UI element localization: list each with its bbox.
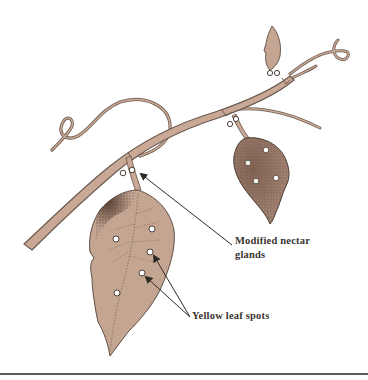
nectar-glands-label: Modified nectar glands — [235, 234, 310, 262]
vine-illustration — [0, 0, 368, 380]
top-bud-leaf — [264, 26, 281, 76]
yellow-leaf-spot — [113, 236, 119, 242]
bottom-rule-divider — [0, 373, 368, 375]
yellow-leaf-spot — [147, 249, 153, 255]
yellow-leaf-spot — [114, 290, 120, 296]
yellow-leaf-spot — [253, 178, 259, 184]
yellow-leaf-spot — [139, 270, 145, 276]
nectar-gland — [227, 121, 232, 126]
nectar-glands-label-line1: Modified nectar — [235, 234, 310, 248]
nectar-gland — [120, 170, 126, 176]
diagram-figure: Modified nectar glands Yellow leaf spots — [0, 0, 368, 380]
nectar-gland — [233, 116, 238, 121]
left-tendril — [52, 99, 170, 156]
yellow-leaf-spot — [149, 226, 155, 232]
yellow-leaf-spots-label: Yellow leaf spots — [192, 309, 269, 323]
right-leaf-petiole — [227, 114, 249, 140]
large-leaf — [89, 190, 174, 356]
yellow-leaf-spot — [245, 160, 251, 166]
nectar-gland — [129, 167, 135, 173]
right-leaf — [234, 138, 289, 224]
nectar-gland — [274, 70, 279, 75]
yellow-leaf-spot — [273, 175, 279, 181]
nectar-gland — [267, 70, 272, 75]
yellow-leaf-spot — [263, 147, 269, 153]
nectar-glands-label-line2: glands — [235, 248, 310, 262]
